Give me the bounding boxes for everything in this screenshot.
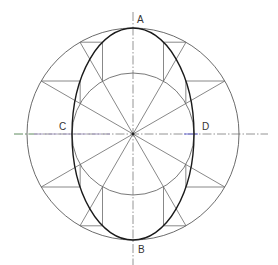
radial-ray (41, 81, 133, 134)
radial-ray (133, 42, 186, 134)
label-A: A (137, 14, 144, 25)
radial-ray (80, 42, 133, 134)
label-D: D (202, 121, 209, 132)
label-B: B (138, 244, 145, 255)
radial-ray (80, 134, 133, 226)
ellipse-construction-diagram: A B C D (0, 0, 278, 265)
label-C: C (59, 121, 66, 132)
radial-ray (133, 134, 225, 187)
center-point (132, 133, 135, 136)
radial-ray (133, 81, 225, 134)
radial-ray (133, 134, 186, 226)
radial-ray (41, 134, 133, 187)
